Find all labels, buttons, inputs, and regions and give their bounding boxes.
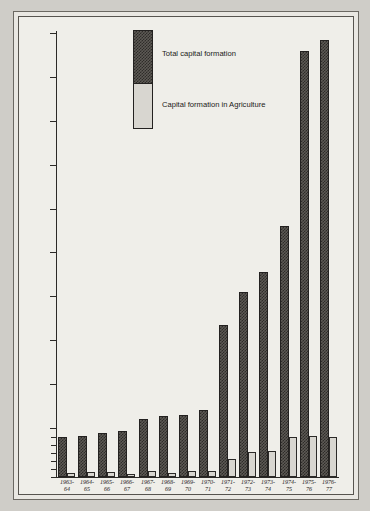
bar-group	[57, 30, 77, 477]
bar-agriculture-1975-76	[309, 436, 317, 477]
bar-total-1964-65	[78, 436, 87, 477]
bar-total-1971-72	[219, 325, 228, 477]
bar-total-1968-69	[159, 416, 168, 477]
bar-group	[258, 30, 278, 477]
x-axis-labels: 1963-641964-651965-661966-671967-681968-…	[57, 479, 339, 505]
y-tick-30	[51, 453, 56, 454]
bar-agriculture-1967-68	[148, 471, 156, 477]
bar-agriculture-1976-77	[329, 437, 337, 477]
y-tick-0	[51, 477, 56, 478]
y-tick-900	[50, 77, 56, 78]
bar-agriculture-1965-66	[107, 472, 115, 477]
bar-agriculture-1969-70	[188, 471, 196, 477]
bar-group	[238, 30, 258, 477]
bar-total-1975-76	[300, 51, 309, 477]
bar-group	[77, 30, 97, 477]
bar-agriculture-1970-71	[208, 471, 216, 477]
y-tick-10	[51, 469, 56, 470]
bar-total-1965-66	[98, 433, 107, 478]
bar-total-1972-73	[239, 292, 248, 477]
bar-agriculture-1968-69	[168, 473, 176, 477]
bar-group	[299, 30, 319, 477]
bar-agriculture-1964-65	[87, 472, 95, 477]
bar-total-1973-74	[259, 272, 268, 477]
bar-total-1970-71	[199, 410, 208, 477]
bar-total-1963-64	[58, 437, 67, 477]
bar-total-1966-67	[118, 431, 127, 477]
y-tick-50	[51, 437, 56, 438]
y-tick-20	[51, 461, 56, 462]
bar-group	[158, 30, 178, 477]
bar-total-1967-68	[139, 419, 148, 477]
bar-agriculture-1963-64	[67, 473, 75, 477]
bar-total-1974-75	[280, 226, 289, 477]
y-tick-700	[50, 165, 56, 166]
bar-group	[178, 30, 198, 477]
bar-group	[319, 30, 339, 477]
bar-agriculture-1966-67	[127, 474, 135, 477]
y-tick-400	[50, 296, 56, 297]
y-tick-100	[50, 428, 56, 429]
bar-group	[218, 30, 238, 477]
legend-swatch-total	[134, 31, 152, 84]
y-tick-200	[50, 384, 56, 385]
y-tick-1000	[50, 33, 56, 34]
bar-total-1969-70	[179, 415, 188, 477]
y-tick-500	[50, 252, 56, 253]
x-axis-label-1976-77: 1976-77	[317, 479, 341, 494]
bar-group	[279, 30, 299, 477]
legend-label-total: Total capital formation	[162, 49, 236, 58]
legend-label-agriculture: Capital formation in Agriculture	[162, 100, 265, 109]
bar-agriculture-1974-75	[289, 437, 297, 477]
y-tick-40	[51, 445, 56, 446]
bar-group	[97, 30, 117, 477]
bar-agriculture-1971-72	[228, 459, 236, 477]
bar-agriculture-1972-73	[248, 452, 256, 477]
legend-swatch-combined	[133, 30, 153, 129]
legend-swatch-agriculture	[134, 84, 152, 128]
y-tick-800	[50, 121, 56, 122]
bar-total-1976-77	[320, 40, 329, 477]
bar-agriculture-1973-74	[268, 451, 276, 477]
y-axis-labels: 0102030405010020030040050060070080090010…	[0, 0, 48, 511]
y-tick-300	[50, 340, 56, 341]
y-tick-600	[50, 209, 56, 210]
bar-series-container	[57, 30, 339, 477]
chart-page: 0102030405010020030040050060070080090010…	[0, 0, 370, 511]
x-axis-line	[56, 477, 339, 478]
bar-group	[198, 30, 218, 477]
